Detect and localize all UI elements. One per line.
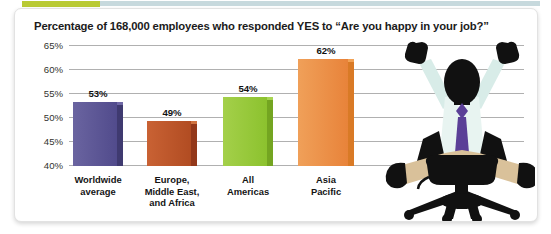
plot-area: 65% 60% 55% 50% 45% 40% 53% Worldwide av… (15, 9, 537, 221)
category-label-europe-middle-east-africa: Europe, Middle East, and Africa (129, 174, 215, 209)
bar-front-face (223, 97, 267, 166)
bar-front-face (73, 102, 117, 166)
bar-worldwide-average (73, 102, 123, 166)
chart-card: Percentage of 168,000 employees who resp… (14, 8, 538, 222)
bar-side-face (348, 62, 354, 166)
bar-front-face (298, 59, 348, 166)
bar-value-label-worldwide-average: 53% (73, 88, 123, 99)
category-label-line1: All (205, 174, 291, 186)
ytick-label-65: 65% (23, 40, 63, 51)
bar-all-americas (223, 97, 273, 166)
ytick-label-40: 40% (23, 160, 63, 171)
caster-left (404, 210, 414, 220)
accent-strip-blue (100, 1, 540, 6)
happy-businessman-illustration (383, 35, 535, 221)
category-label-asia-pacific: Asia Pacific (283, 174, 369, 197)
bar-asia-pacific (298, 59, 354, 166)
category-label-line1: Asia (283, 174, 369, 186)
accent-strip-green (22, 1, 100, 7)
bar-value-label-asia-pacific: 62% (301, 45, 351, 56)
bar-side-face (191, 124, 197, 166)
category-label-line2: Pacific (283, 186, 369, 198)
chart-screenshot: Percentage of 168,000 employees who resp… (0, 0, 551, 234)
bar-side-face (267, 100, 273, 166)
ytick-label-55: 55% (23, 88, 63, 99)
ytick-label-45: 45% (23, 136, 63, 147)
category-label-line1: Europe, (129, 174, 215, 186)
bar-value-label-all-americas: 54% (223, 83, 273, 94)
ytick-label-50: 50% (23, 112, 63, 123)
bar-front-face (147, 121, 191, 166)
chair-seat (426, 155, 498, 185)
bar-side-face (117, 105, 123, 166)
category-label-line2: Americas (205, 186, 291, 198)
chair-base-hub (440, 193, 484, 209)
left-fist (405, 42, 428, 64)
right-fist (496, 42, 519, 64)
bar-europe-middle-east-africa (147, 121, 197, 166)
category-label-line2: Middle East, (129, 186, 215, 198)
happy-businessman-icon (383, 35, 535, 221)
caster-right (510, 210, 520, 220)
category-label-line3: and Africa (129, 197, 215, 209)
left-shoe (386, 163, 407, 189)
category-label-all-americas: All Americas (205, 174, 291, 197)
right-shoe (517, 163, 535, 189)
ytick-label-60: 60% (23, 64, 63, 75)
bar-value-label-europe-middle-east-africa: 49% (147, 107, 197, 118)
